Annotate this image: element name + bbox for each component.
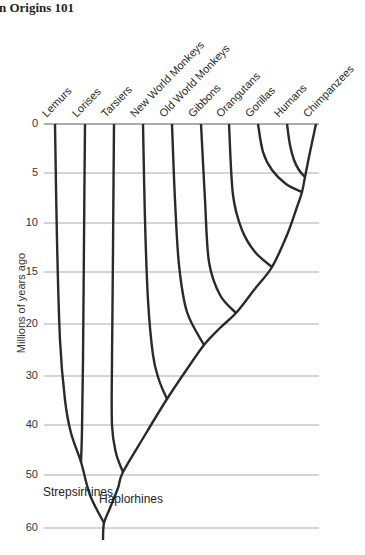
tick-label-60: 60 [0, 521, 38, 534]
branch-new-world-monkeys [143, 124, 167, 399]
tick-label-50: 50 [0, 468, 38, 481]
tick-label-10: 10 [0, 216, 38, 229]
figure-page: n Origins 101 Millions of years ago 0510… [0, 0, 365, 555]
branch-humans [287, 124, 305, 177]
branch-orangutans [229, 124, 272, 267]
tick-label-15: 15 [0, 265, 38, 278]
branch-lorises [81, 124, 85, 462]
tick-label-30: 30 [0, 369, 38, 382]
branch-gorillas [258, 124, 302, 192]
tick-label-40: 40 [0, 418, 38, 431]
tick-label-0: 0 [0, 117, 38, 130]
tick-label-20: 20 [0, 317, 38, 330]
branch-tarsiers [112, 124, 123, 472]
tick-label-5: 5 [0, 166, 38, 179]
clade-label-haplorhines: Haplorhines [99, 492, 163, 506]
branch-old-world-monkeys [172, 124, 204, 345]
branch-stem-and-backbone-to-chimpanzees [103, 124, 316, 540]
